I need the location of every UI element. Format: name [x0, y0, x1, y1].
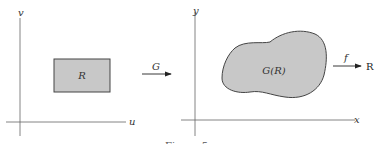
y-axis-label: y	[192, 5, 199, 16]
v-axis-label: v	[18, 7, 24, 18]
real-line-label: R	[366, 61, 374, 72]
map-g-arrow: G	[142, 61, 171, 74]
u-axis-label: u	[129, 116, 135, 127]
map-f-label: f	[343, 52, 350, 63]
figure-caption: Figure 5	[165, 140, 208, 144]
region-g-of-r-label: G(R)	[262, 65, 285, 76]
region-r-label: R	[77, 70, 86, 81]
x-axis-label: x	[354, 114, 360, 125]
diagram: v u R G y x G(R) f R Figure 5	[0, 0, 381, 144]
region-r: R	[54, 59, 110, 92]
map-g-label: G	[152, 61, 160, 72]
map-f-arrow: f R	[333, 52, 374, 72]
region-g-of-r: G(R)	[222, 31, 326, 97]
